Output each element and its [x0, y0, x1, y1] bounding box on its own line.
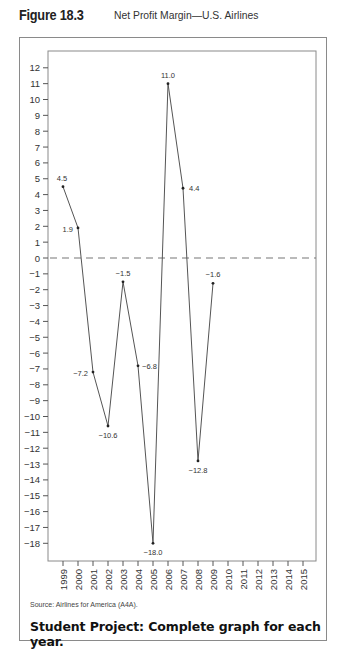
data-point	[167, 82, 170, 85]
x-tick-label: 2005	[148, 569, 159, 590]
y-tick-label: 11	[30, 78, 40, 89]
y-tick-label: −5	[29, 332, 40, 343]
data-point	[197, 459, 200, 462]
y-tick-label: 0	[35, 253, 40, 264]
data-label: −12.8	[189, 466, 208, 475]
y-tick-label: −1	[29, 268, 40, 279]
data-point	[77, 226, 80, 229]
y-tick-label: −12	[24, 443, 40, 454]
x-tick-label: 2014	[283, 569, 294, 590]
y-tick-label: −14	[24, 474, 40, 485]
data-label: 1.9	[63, 225, 73, 234]
x-tick-label: 2007	[178, 569, 189, 590]
y-tick-label: 10	[29, 94, 40, 105]
y-tick-label: −17	[24, 522, 40, 533]
y-tick-label: −6	[29, 348, 40, 359]
y-tick-label: −13	[24, 459, 40, 470]
line-chart: 1211109876543210−1−2−3−4−5−6−7−8−9−10−11…	[0, 0, 338, 665]
x-tick-label: 2010	[223, 569, 234, 590]
data-label: 11.0	[161, 71, 175, 80]
y-tick-label: 1	[35, 237, 40, 248]
y-tick-label: −10	[24, 411, 40, 422]
data-point	[92, 371, 95, 374]
x-tick-label: 2008	[193, 569, 204, 590]
data-point	[212, 282, 215, 285]
x-tick-label: 2009	[208, 569, 219, 590]
data-point	[182, 187, 185, 190]
y-tick-label: 12	[29, 62, 40, 73]
data-label: −6.8	[142, 362, 157, 371]
x-tick-label: 2000	[73, 569, 84, 590]
x-tick-label: 2001	[88, 569, 99, 590]
data-label: −10.6	[99, 431, 118, 440]
y-tick-label: −11	[25, 427, 40, 438]
y-tick-label: −2	[29, 284, 40, 295]
data-label: 4.5	[57, 174, 67, 183]
x-tick-label: 2002	[103, 569, 114, 590]
data-point	[137, 364, 140, 367]
x-tick-label: 2012	[253, 569, 264, 590]
x-tick-label: 2003	[118, 569, 129, 590]
plot-frame	[48, 51, 316, 561]
data-point	[107, 425, 110, 428]
y-tick-label: −16	[24, 506, 40, 517]
y-tick-label: −9	[29, 395, 40, 406]
data-label: −7.2	[73, 369, 88, 378]
y-tick-label: 2	[35, 221, 40, 232]
y-tick-label: 4	[35, 189, 40, 200]
source-note: Source: Airlines for America (A4A).	[30, 601, 138, 608]
y-tick-label: −7	[29, 363, 40, 374]
student-project-note: Student Project: Complete graph for each…	[30, 619, 338, 649]
y-tick-label: 9	[35, 110, 40, 121]
data-point	[122, 280, 125, 283]
y-tick-label: 8	[35, 126, 40, 137]
y-tick-label: −4	[29, 316, 40, 327]
data-label: −1.6	[206, 270, 221, 279]
y-tick-label: −15	[24, 490, 40, 501]
y-tick-label: 5	[35, 173, 40, 184]
data-label: −18.0	[144, 548, 163, 557]
data-point	[62, 185, 65, 188]
data-label: −1.5	[116, 269, 131, 278]
data-point	[152, 542, 155, 545]
data-label: 4.4	[189, 184, 199, 193]
x-tick-label: 2015	[298, 569, 309, 590]
y-tick-label: 7	[35, 142, 40, 153]
x-tick-label: 2006	[163, 569, 174, 590]
x-tick-label: 2004	[133, 569, 144, 590]
y-tick-label: −3	[29, 300, 40, 311]
x-tick-label: 2011	[238, 569, 249, 589]
y-tick-label: −8	[29, 379, 40, 390]
y-tick-label: −18	[24, 538, 40, 549]
x-tick-label: 2013	[268, 569, 279, 590]
x-tick-label: 1999	[58, 569, 69, 590]
y-tick-label: 3	[35, 205, 40, 216]
y-tick-label: 6	[35, 157, 40, 168]
